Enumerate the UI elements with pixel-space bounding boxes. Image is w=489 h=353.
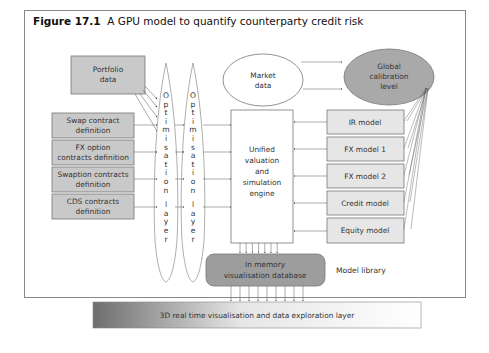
model-box-ir: IR model (327, 110, 404, 134)
fx-option-label-1: FX option (75, 143, 110, 152)
market-data-ellipse: Market data (223, 54, 303, 106)
contract-box-cds: CDS contracts definition (52, 194, 134, 219)
portfolio-data-box: Portfolio data (71, 56, 145, 94)
engine-label-4: simulation (243, 178, 282, 187)
database-label-1: In memory (245, 260, 286, 269)
global-calibration-label-2: calibration (369, 72, 408, 81)
credit-model-label: Credit model (341, 199, 389, 208)
fx-option-label-2: contracts definition (57, 153, 129, 162)
swap-label-2: definition (76, 126, 111, 135)
market-data-label-1: Market (250, 71, 276, 80)
portfolio-label-1: Portfolio (93, 65, 124, 74)
exploration-layer-bar: 3D real time visualisation and data expl… (93, 302, 421, 328)
contract-box-swaption: Swaption contracts definition (52, 167, 134, 192)
database-label-2: visualisation database (224, 271, 307, 280)
ir-model-label: IR model (349, 118, 382, 127)
fx-model-2-label: FX model 2 (344, 172, 386, 181)
global-calibration-label-3: level (380, 82, 398, 91)
model-library-label: Model library (336, 266, 386, 275)
cds-label-1: CDS contracts (67, 197, 120, 206)
in-memory-database-box: In memory visualisation database (206, 254, 325, 286)
market-data-label-2: data (255, 81, 272, 90)
model-box-fx1: FX model 1 (327, 137, 404, 161)
equity-model-label: Equity model (341, 226, 390, 235)
engine-label-5: engine (249, 189, 275, 198)
swaption-label-2: definition (76, 180, 111, 189)
engine-label-3: and (255, 167, 269, 176)
contract-box-fx-option: FX option contracts definition (52, 140, 134, 165)
model-box-fx2: FX model 2 (327, 164, 404, 188)
fx-model-1-label: FX model 1 (344, 145, 386, 154)
model-box-credit: Credit model (327, 191, 404, 215)
global-calibration-label-1: Global (377, 62, 401, 71)
swap-label-1: Swap contract (66, 116, 119, 125)
engine-label-1: Unified (249, 145, 275, 154)
portfolio-label-2: data (100, 75, 117, 84)
contract-box-swap: Swap contract definition (52, 113, 134, 138)
cds-label-2: definition (76, 207, 111, 216)
unified-engine-box: Unified valuation and simulation engine (231, 110, 293, 243)
engine-label-2: valuation (245, 156, 280, 165)
exploration-layer-label: 3D real time visualisation and data expl… (160, 311, 356, 320)
swaption-label-1: Swaption contracts (57, 170, 128, 179)
model-box-equity: Equity model (327, 218, 404, 243)
diagram: Portfolio data Swap contract definition … (0, 0, 489, 353)
